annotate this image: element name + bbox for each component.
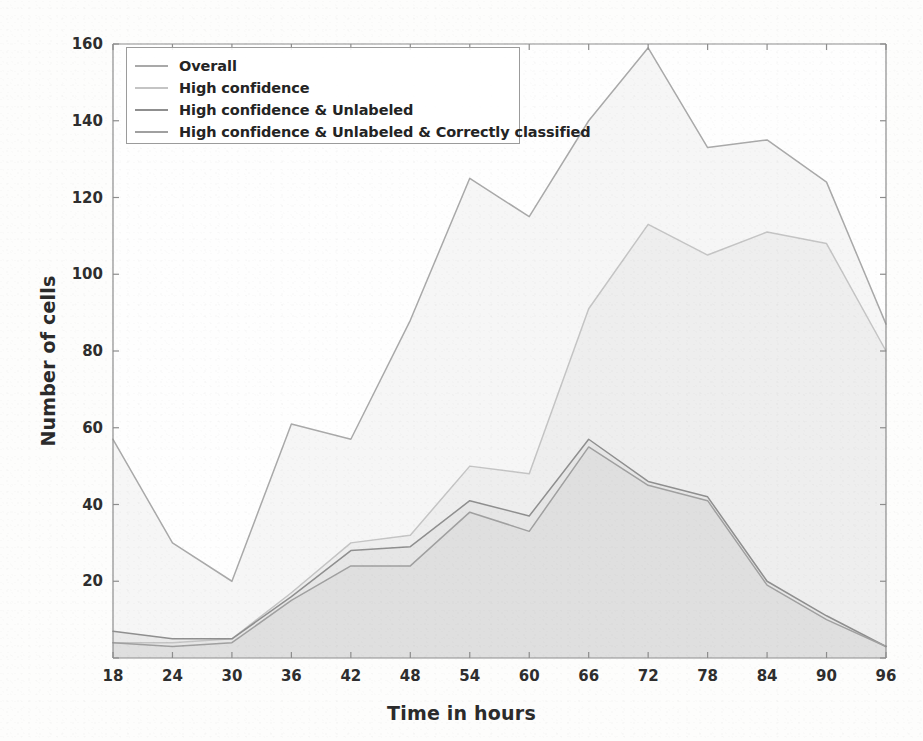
x-axis-label: Time in hours [0,702,923,724]
legend: OverallHigh confidenceHigh confidence & … [126,47,520,144]
legend-item-2: High confidence & Unlabeled [135,99,413,121]
x-tick-label: 60 [504,667,554,685]
legend-item-label: High confidence & Unlabeled [179,102,413,118]
legend-item-0: Overall [135,55,237,77]
x-tick-label: 24 [147,667,197,685]
legend-item-label: Overall [179,58,237,74]
legend-line-swatch-icon [135,87,168,89]
x-tick-label: 54 [445,667,495,685]
x-tick-label: 66 [564,667,614,685]
legend-item-label: High confidence & Unlabeled & Correctly … [179,124,591,140]
legend-item-3: High confidence & Unlabeled & Correctly … [135,121,591,143]
chart-figure: Number of cells Time in hours OverallHig… [0,0,923,741]
y-tick-label: 120 [47,189,103,207]
x-tick-label: 42 [326,667,376,685]
legend-item-1: High confidence [135,77,309,99]
y-tick-label: 140 [47,112,103,130]
x-tick-label: 18 [88,667,138,685]
x-tick-label: 30 [207,667,257,685]
y-tick-label: 160 [47,35,103,53]
legend-line-swatch-icon [135,109,168,111]
x-tick-label: 90 [802,667,852,685]
x-tick-label: 78 [683,667,733,685]
y-tick-label: 100 [47,265,103,283]
y-tick-label: 80 [47,342,103,360]
legend-item-label: High confidence [179,80,309,96]
legend-line-swatch-icon [135,65,168,67]
x-tick-label: 96 [861,667,911,685]
legend-line-swatch-icon [135,131,168,133]
y-tick-label: 40 [47,496,103,514]
x-tick-label: 72 [623,667,673,685]
y-tick-label: 20 [47,572,103,590]
x-tick-label: 36 [266,667,316,685]
x-tick-label: 84 [742,667,792,685]
x-tick-label: 48 [385,667,435,685]
y-tick-label: 60 [47,419,103,437]
